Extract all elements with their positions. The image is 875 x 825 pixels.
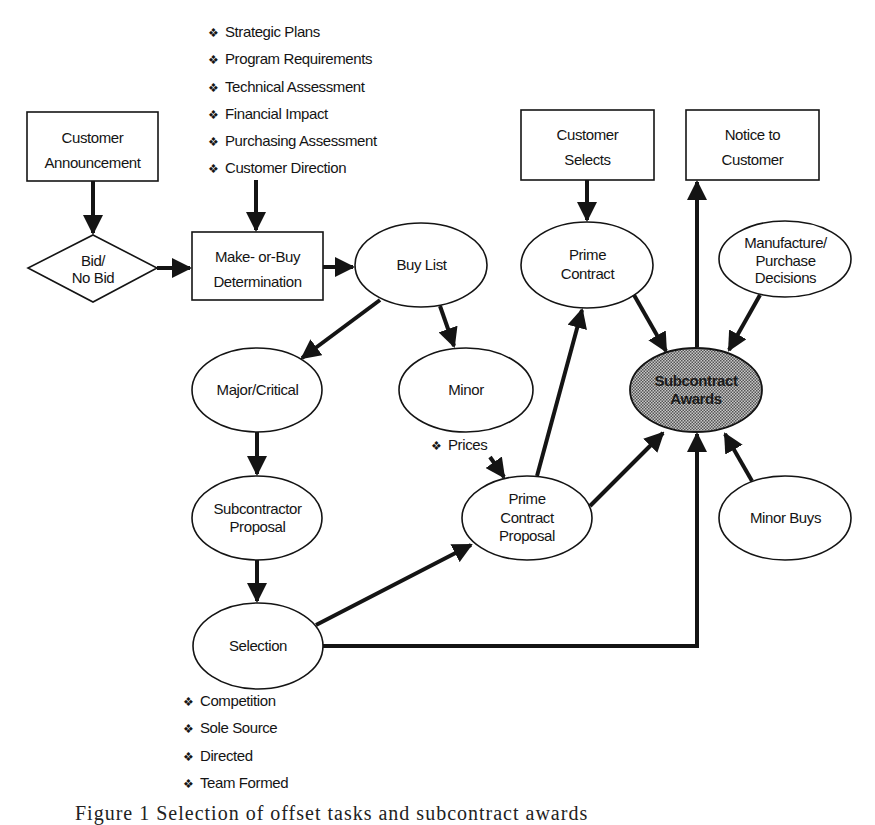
selection-types-list: ❖Competition ❖Sole Source ❖Directed ❖Tea…: [183, 688, 288, 797]
label-customer-selects: Customer Selects: [521, 126, 654, 168]
list-item: ❖Team Formed: [183, 770, 288, 797]
bullet-diamond-icon: ❖: [208, 156, 225, 182]
list-item: ❖Purchasing Assessment: [208, 128, 377, 155]
bullet-diamond-icon: ❖: [183, 771, 200, 797]
list-item: ❖Competition: [183, 688, 288, 715]
list-item: ❖Sole Source: [183, 715, 288, 742]
arrow-proposal-to-prime: [537, 310, 582, 476]
list-item: ❖Strategic Plans: [208, 19, 377, 46]
bullet-diamond-icon: ❖: [183, 689, 200, 715]
label-bid-no-bid: Bid/ No Bid: [43, 252, 143, 286]
label-prime-contract: Prime Contract: [521, 246, 654, 282]
label-minor: Minor: [399, 381, 533, 398]
bullet-diamond-icon: ❖: [183, 716, 200, 742]
bullet-diamond-icon: ❖: [183, 744, 200, 770]
arrow-minorbuys-to-awards: [725, 434, 752, 481]
bullet-diamond-icon: ❖: [208, 75, 225, 101]
label-subcontract-awards: Subcontract Awards: [630, 372, 762, 408]
label-prime-contract-proposal: Prime Contract Proposal: [462, 490, 592, 546]
list-item: ❖Financial Impact: [208, 101, 377, 128]
arrow-manufacture-to-awards: [729, 295, 760, 350]
arrow-buylist-to-minor: [440, 306, 454, 346]
label-customer-announcement: Customer Announcement: [27, 129, 158, 171]
list-item: ❖Directed: [183, 743, 288, 770]
bullet-diamond-icon: ❖: [208, 20, 225, 46]
bullet-diamond-icon: ❖: [208, 129, 225, 155]
label-major-critical: Major/Critical: [192, 381, 323, 398]
bullet-diamond-icon: ❖: [208, 47, 225, 73]
label-notice-to-customer: Notice to Customer: [686, 126, 819, 168]
list-item: ❖Prices: [431, 432, 487, 459]
label-make-or-buy: Make- or-Buy Determination: [192, 248, 323, 290]
make-or-buy-inputs-list: ❖Strategic Plans ❖Program Requirements ❖…: [208, 19, 377, 183]
list-item: ❖Technical Assessment: [208, 74, 377, 101]
arrow-proposal-to-awards: [590, 433, 663, 506]
bullet-diamond-icon: ❖: [431, 433, 448, 459]
arrow-prime-to-awards: [634, 295, 666, 351]
bullet-diamond-icon: ❖: [208, 102, 225, 128]
list-item: ❖Program Requirements: [208, 46, 377, 73]
arrow-selection-to-proposal: [316, 545, 471, 625]
label-selection: Selection: [193, 637, 323, 654]
label-manufacture-purchase: Manufacture/ Purchase Decisions: [719, 234, 852, 287]
arrow-prices-to-proposal: [490, 457, 504, 477]
list-item: ❖Customer Direction: [208, 155, 377, 182]
arrow-buylist-to-major: [302, 300, 380, 358]
label-subcontractor-proposal: Subcontractor Proposal: [192, 500, 323, 536]
label-minor-buys: Minor Buys: [719, 509, 852, 526]
figure-caption: Figure 1 Selection of offset tasks and s…: [75, 802, 588, 825]
minor-prices-note: ❖Prices: [431, 432, 487, 459]
label-buy-list: Buy List: [355, 256, 488, 273]
